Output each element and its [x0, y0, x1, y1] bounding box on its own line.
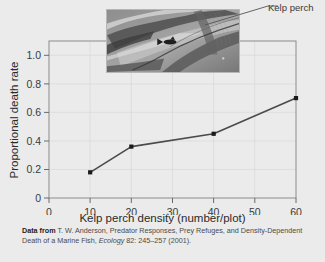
y-axis-title: Proportional death rate [8, 62, 20, 179]
kelp-perch-callout-label: Kelp perch [268, 2, 313, 13]
figure-panel: 1.0 0.8 0.6 0.4 0.2 0 0 10 20 30 40 50 6… [0, 0, 325, 262]
y-tick-label: 0.2 [26, 163, 41, 175]
source-journal-name: Ecology [99, 236, 125, 245]
y-tick-label: 0.6 [26, 106, 41, 118]
source-lead-label: Data from [22, 226, 56, 235]
y-axis-ticks [44, 55, 49, 198]
clipped-caption-text [26, 0, 226, 5]
x-axis-ticks [49, 198, 296, 203]
y-tick-label: 0 [35, 192, 41, 204]
source-line2-b: 82: 245–257 (2001). [124, 236, 191, 245]
data-point [212, 132, 216, 136]
source-line2-a: Death of a Marine Fish, [22, 236, 99, 245]
data-point [129, 145, 133, 149]
x-axis-title: Kelp perch density (number/plot) [0, 212, 325, 224]
y-tick-label: 0.8 [26, 78, 41, 90]
source-line1: T. W. Anderson, Predator Responses, Prey… [56, 226, 303, 235]
data-point [88, 170, 92, 174]
data-line-series [90, 98, 296, 172]
source-citation: Data from T. W. Anderson, Predator Respo… [22, 226, 314, 246]
data-point [294, 96, 298, 100]
data-markers [88, 96, 298, 174]
y-tick-label: 1.0 [26, 49, 41, 61]
y-tick-labels: 1.0 0.8 0.6 0.4 0.2 0 [26, 49, 41, 204]
y-tick-label: 0.4 [26, 135, 41, 147]
